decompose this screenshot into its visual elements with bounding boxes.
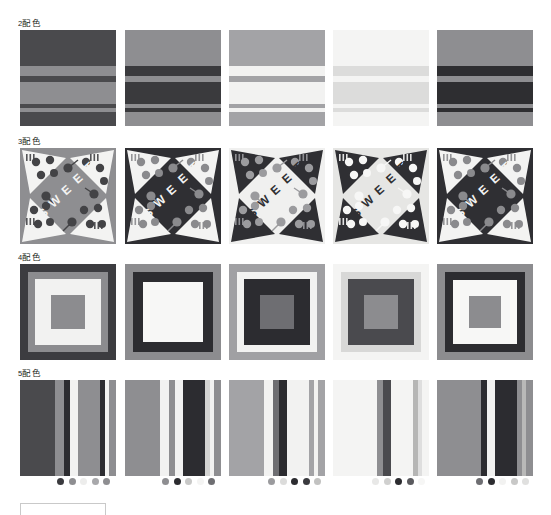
swatch-2c-1[interactable] <box>20 30 116 126</box>
stripe-band <box>383 380 391 476</box>
row-label-text: 配色 <box>22 136 41 146</box>
stripe-band <box>160 380 169 476</box>
palette-dot[interactable] <box>372 478 379 485</box>
swatch-5c-3[interactable] <box>229 380 325 476</box>
stripe-band <box>175 380 183 476</box>
palette-dot[interactable] <box>303 478 310 485</box>
sweet-pinwheel-pattern: SWEET <box>125 148 221 244</box>
stripe-band <box>333 66 429 76</box>
palette-dot[interactable] <box>476 478 483 485</box>
horizontal-stripe-pattern <box>20 30 116 126</box>
stripe-band <box>287 380 309 476</box>
swatch-3c-5[interactable]: SWEET <box>437 148 533 244</box>
stripe-band <box>125 66 221 76</box>
nested-square-pattern <box>125 264 221 360</box>
palette-dot[interactable] <box>162 478 169 485</box>
palette-dot[interactable] <box>522 478 529 485</box>
swatch-4c-5[interactable] <box>437 264 533 360</box>
palette-dot[interactable] <box>92 478 99 485</box>
swatch-5c-4[interactable] <box>333 380 429 476</box>
stripe-band <box>229 380 264 476</box>
swatch-2c-2[interactable] <box>125 30 221 126</box>
stripe-band <box>264 380 273 476</box>
row-label-2colors: 2配色 <box>18 18 41 29</box>
stripe-band <box>437 380 472 476</box>
stripe-band <box>229 112 325 126</box>
stripe-band <box>20 30 116 66</box>
nested-square-layer <box>469 296 501 328</box>
row-label-text: 配色 <box>22 252 41 262</box>
row-label-3colors: 3配色 <box>18 136 41 147</box>
palette-dot[interactable] <box>268 478 275 485</box>
palette-dot[interactable] <box>488 478 495 485</box>
stripe-band <box>125 82 221 104</box>
vertical-stripe-pattern <box>20 380 116 476</box>
stripe-band <box>333 82 429 104</box>
stripe-band <box>391 380 413 476</box>
swatch-4c-2[interactable] <box>125 264 221 360</box>
stripe-band <box>78 380 100 476</box>
palette-dot[interactable] <box>185 478 192 485</box>
palette-dot[interactable] <box>395 478 402 485</box>
swatch-5c-2[interactable] <box>125 380 221 476</box>
swatch-4c-4[interactable] <box>333 264 429 360</box>
palette-dot[interactable] <box>280 478 287 485</box>
stripe-band <box>20 380 55 476</box>
stripe-band <box>20 82 116 104</box>
swatch-2c-3[interactable] <box>229 30 325 126</box>
swatch-3c-1[interactable]: SWEET <box>20 148 116 244</box>
palette-dot[interactable] <box>291 478 298 485</box>
swatch-5c-1[interactable] <box>20 380 116 476</box>
palette-dot[interactable] <box>407 478 414 485</box>
horizontal-stripe-pattern <box>333 30 429 126</box>
sweet-pinwheel-pattern: SWEET <box>437 148 533 244</box>
stripe-band <box>279 380 287 476</box>
palette-dot[interactable] <box>499 478 506 485</box>
swatch-strip-3colors: SWEETSWEETSWEETSWEETSWEET <box>0 148 551 244</box>
swatch-2c-4[interactable] <box>333 30 429 126</box>
swatch-3c-2[interactable]: SWEET <box>125 148 221 244</box>
stripe-band <box>229 66 325 76</box>
palette-dot[interactable] <box>80 478 87 485</box>
swatch-5c-5[interactable] <box>437 380 533 476</box>
palette-dot[interactable] <box>69 478 76 485</box>
swatch-4c-3[interactable] <box>229 264 325 360</box>
swatch-3c-3[interactable]: SWEET <box>229 148 325 244</box>
horizontal-stripe-pattern <box>125 30 221 126</box>
palette-dots <box>57 478 110 485</box>
stripe-band <box>472 380 481 476</box>
palette-dot[interactable] <box>57 478 64 485</box>
palette-dot[interactable] <box>197 478 204 485</box>
sweet-pinwheel-pattern: SWEET <box>333 148 429 244</box>
stripe-band <box>125 112 221 126</box>
palette-dot[interactable] <box>103 478 110 485</box>
stripe-band <box>229 82 325 104</box>
nested-square-pattern <box>333 264 429 360</box>
stripe-band <box>70 380 78 476</box>
stripe-band <box>20 66 116 76</box>
stripe-band <box>333 112 429 126</box>
vertical-stripe-pattern <box>333 380 429 476</box>
vertical-stripe-pattern <box>229 380 325 476</box>
palette-dot[interactable] <box>384 478 391 485</box>
palette-dot[interactable] <box>418 478 425 485</box>
swatch-4c-1[interactable] <box>20 264 116 360</box>
palette-dot[interactable] <box>174 478 181 485</box>
palette-dot[interactable] <box>314 478 321 485</box>
stripe-band <box>487 380 495 476</box>
stripe-band <box>318 380 325 476</box>
stripe-band <box>333 380 368 476</box>
swatch-strip-2colors <box>0 30 551 126</box>
nested-square-layer <box>260 295 294 329</box>
row-label-text: 配色 <box>22 368 41 378</box>
swatch-3c-4[interactable]: SWEET <box>333 148 429 244</box>
nested-square-pattern <box>20 264 116 360</box>
stripe-band <box>437 82 533 104</box>
palette-dot[interactable] <box>511 478 518 485</box>
swatch-2c-5[interactable] <box>437 30 533 126</box>
stripe-band <box>437 30 533 66</box>
stripe-band <box>125 30 221 66</box>
palette-dot[interactable] <box>208 478 215 485</box>
stripe-band <box>109 380 116 476</box>
palette-dots <box>268 478 321 485</box>
